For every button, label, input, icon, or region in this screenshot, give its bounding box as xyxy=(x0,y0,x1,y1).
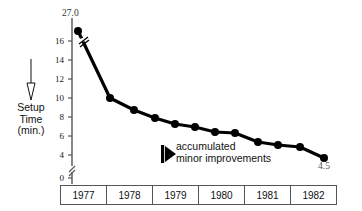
y-tick-label-12: 12 xyxy=(42,74,64,84)
x-axis-year-1979: 1979 xyxy=(153,186,199,204)
chart-screenshot: Setup Time (min.) xyxy=(0,0,362,211)
data-point xyxy=(191,123,199,131)
y-tick-label-10: 10 xyxy=(42,93,64,103)
y-tick-label-16: 16 xyxy=(42,36,64,46)
y-tick-label-8: 8 xyxy=(42,112,64,122)
data-point xyxy=(171,120,179,128)
accumulated-improvements-annotation: accumulated minor improvements xyxy=(176,140,271,164)
x-axis-year-1977: 1977 xyxy=(61,186,107,204)
y-tick-label-4: 4 xyxy=(42,150,64,160)
y-tick-label-14: 14 xyxy=(42,55,64,65)
data-point xyxy=(74,27,82,35)
setup-time-line xyxy=(78,31,324,158)
accumulated-improvements-arrow-icon xyxy=(161,145,176,163)
data-point xyxy=(231,129,239,137)
last-point-value-label: 4.5 xyxy=(318,161,330,171)
data-point xyxy=(211,128,219,136)
y-tick-label-0: 0 xyxy=(42,173,64,183)
x-axis-year-1980: 1980 xyxy=(199,186,245,204)
data-point xyxy=(296,143,304,151)
x-axis-year-1978: 1978 xyxy=(107,186,153,204)
x-axis-year-1982: 1982 xyxy=(291,186,336,204)
x-axis-year-1981: 1981 xyxy=(245,186,291,204)
x-axis-year-boxes: 1977 1978 1979 1980 1981 1982 xyxy=(60,185,337,205)
data-point xyxy=(151,114,159,122)
data-point xyxy=(130,106,138,114)
first-point-value-label: 27.0 xyxy=(62,8,79,18)
y-tick-label-6: 6 xyxy=(42,131,64,141)
annotation-line-2: minor improvements xyxy=(176,152,271,164)
data-point xyxy=(274,141,282,149)
annotation-line-1: accumulated xyxy=(176,140,271,152)
data-point xyxy=(106,94,114,102)
